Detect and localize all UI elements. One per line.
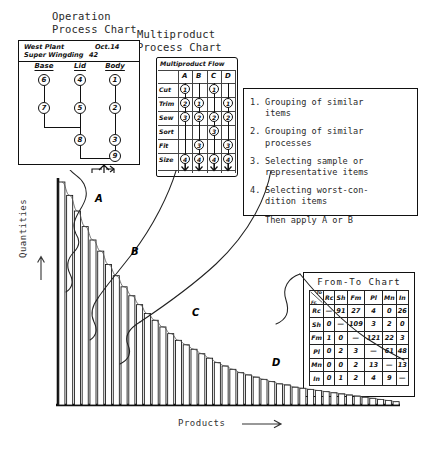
mpc-hline-0 <box>158 70 236 71</box>
bar <box>245 375 251 405</box>
bar <box>339 394 345 405</box>
mpc-cell-size-c: 4 <box>209 154 219 164</box>
opc-column-lid: Lid <box>67 62 93 70</box>
opc-line-body-1 <box>115 86 116 102</box>
mpc-row-size: Size <box>159 156 173 163</box>
mpc-cell-size-a: 4 <box>180 154 190 164</box>
opc-column-body: Body <box>99 62 131 70</box>
bar <box>308 389 314 405</box>
mpc-cell-sew-a: 3 <box>180 112 190 122</box>
zone-label-c: C <box>192 307 200 318</box>
bar <box>346 395 352 405</box>
bar <box>276 384 282 405</box>
bar <box>152 320 158 405</box>
zone-label-b: B <box>131 246 139 257</box>
multiproduct-process-chart-heading: Multiproduct Process Chart <box>137 28 222 54</box>
mpc-cell-sew-d: 2 <box>223 112 233 122</box>
opc-node-1: 1 <box>109 74 121 86</box>
bar <box>90 240 96 405</box>
mpc-row-trim: Trim <box>159 100 174 107</box>
bar <box>362 397 368 405</box>
bar <box>191 349 197 405</box>
bar <box>253 377 259 405</box>
mpc-row-sew: Sew <box>159 114 173 121</box>
bar <box>269 382 275 405</box>
bar <box>222 366 228 405</box>
y-axis-label: Quantities <box>18 168 28 258</box>
opc-node-4: 4 <box>74 74 86 86</box>
bar <box>199 354 205 405</box>
mpc-column-d: D <box>225 72 231 80</box>
list-item-number: 1. <box>250 97 265 119</box>
bar-series <box>59 182 399 405</box>
mpc-cell-trim-d: 1 <box>223 98 233 108</box>
opc-node-2: 2 <box>109 102 121 114</box>
list-item-text: Grouping of similar processes <box>265 126 363 148</box>
opc-node-6: 6 <box>38 74 50 86</box>
bar <box>354 396 360 405</box>
opc-column-headers: Base Lid Body <box>19 62 139 74</box>
opc-node-5: 5 <box>74 102 86 114</box>
mpc-cell-fit-b: 3 <box>194 140 204 150</box>
bar <box>98 251 104 405</box>
bar <box>59 182 65 405</box>
opc-line-body-2 <box>115 114 116 134</box>
mpc-cell-trim-b: 1 <box>194 98 204 108</box>
operation-process-chart-heading: Operation Process Chart <box>52 10 137 36</box>
mpc-cell-size-d: 4 <box>223 154 233 164</box>
bar <box>105 265 111 405</box>
mpc-cell-size-b: 4 <box>194 154 204 164</box>
opc-plant-name: West Plant <box>24 43 64 51</box>
list-item-number: 2. <box>250 126 265 148</box>
opc-title-row: West Plant Oct.14 Super Wingding 42 <box>19 41 139 62</box>
arrow-up-icon <box>38 257 45 281</box>
pareto-envelope-curve <box>62 182 396 402</box>
zone-curve-c <box>140 170 272 322</box>
pareto-chart: A B C D <box>0 170 425 420</box>
opc-product-name: Super Wingding <box>24 51 84 59</box>
mpc-flow-label: Multiproduct Flow <box>160 60 225 67</box>
bar <box>67 195 73 405</box>
bar <box>370 398 376 405</box>
mpc-row-sort: Sort <box>159 128 174 135</box>
mpc-cell-cut-a: 1 <box>180 84 190 94</box>
opc-node-8: 8 <box>74 134 86 146</box>
list-item-text: Grouping of similar items <box>265 97 363 119</box>
bar <box>284 385 290 405</box>
operation-process-chart-panel: West Plant Oct.14 Super Wingding 42 Base… <box>18 40 140 165</box>
list-item: 2. Grouping of similar processes <box>250 126 411 148</box>
bar <box>292 387 298 405</box>
bar <box>385 401 391 405</box>
opc-node-3: 3 <box>109 134 121 146</box>
mpc-hline-1 <box>158 83 236 84</box>
bar <box>207 358 213 405</box>
bar <box>137 305 143 405</box>
mpc-column-b: B <box>196 72 201 80</box>
bar <box>230 369 236 405</box>
bar <box>323 392 329 405</box>
bar <box>214 363 220 405</box>
mpc-hline-4 <box>158 125 236 126</box>
bar <box>238 373 244 405</box>
mpc-cell-sort-c: 3 <box>209 126 219 136</box>
arrow-right-icon <box>240 418 290 430</box>
opc-node-7: 7 <box>38 102 50 114</box>
mpc-row-cut: Cut <box>159 86 171 93</box>
opc-product-num: 42 <box>89 51 98 59</box>
zone-label-a: A <box>94 193 103 204</box>
bar <box>393 402 399 405</box>
mpc-vline-0 <box>178 70 179 173</box>
mpc-cell-sew-c: 2 <box>209 112 219 122</box>
mpc-cell-trim-a: 2 <box>180 98 190 108</box>
zone-label-d: D <box>272 357 280 368</box>
bar <box>315 391 321 406</box>
bar <box>378 399 384 405</box>
bar <box>300 388 306 405</box>
mpc-row-fit: Fit <box>159 142 168 149</box>
x-axis-label: Products <box>178 418 225 428</box>
mpc-cell-cut-c: 1 <box>209 84 219 94</box>
bar <box>74 211 80 405</box>
bar <box>183 345 189 405</box>
bar <box>160 327 166 405</box>
list-item: 1. Grouping of similar items <box>250 97 411 119</box>
